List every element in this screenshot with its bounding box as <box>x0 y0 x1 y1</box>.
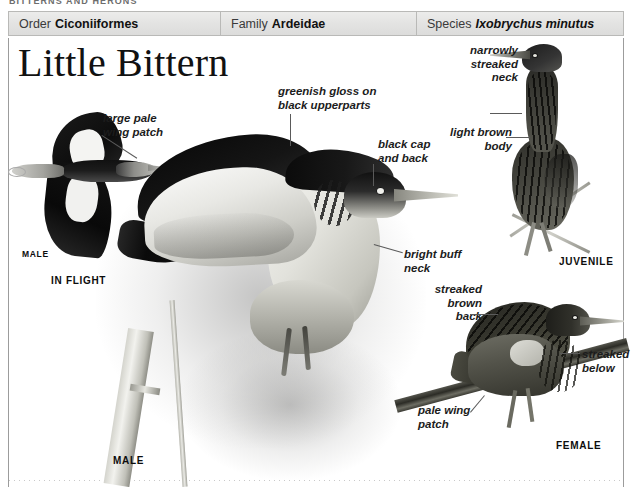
callout-greenish-gloss: greenish gloss on black upperparts <box>278 85 376 112</box>
plate-label-female: FEMALE <box>556 440 601 451</box>
leader-greenish-gloss <box>290 114 291 146</box>
callout-black-cap-and-back: black cap and back <box>378 138 430 165</box>
species-key: Species <box>427 17 471 31</box>
taxonomy-cell-family: Family Ardeidae <box>220 11 416 36</box>
male-belly <box>250 280 354 354</box>
plate-label-male-perched: MALE <box>113 455 144 466</box>
callout-pale-wing-patch: pale wing patch <box>418 404 470 431</box>
plate-label-juvenile: JUVENILE <box>559 256 614 267</box>
juvenile-eye <box>532 53 538 58</box>
callout-light-brown-body: light brown body <box>440 126 512 153</box>
page-rule-bottom-dotted <box>9 480 623 481</box>
female-bill <box>580 316 624 326</box>
callout-streaked-brown-back: streaked brown back <box>424 283 482 324</box>
juvenile-neck-streaks <box>528 72 556 150</box>
taxonomy-cell-species: Species Ixobrychus minutus <box>416 11 624 36</box>
leader-light-brown-body <box>506 137 530 138</box>
leader-streaked-brown-back <box>470 314 498 315</box>
flight-trailing-legs <box>12 164 64 178</box>
family-value: Ardeidae <box>272 17 326 31</box>
taxonomy-cell-order: Order Ciconiiformes <box>8 11 220 36</box>
callout-narrowly-streaked-neck: narrowly streaked neck <box>458 44 518 85</box>
callout-bright-buff-neck: bright buff neck <box>404 248 461 275</box>
male-eye <box>376 187 385 195</box>
female-eye <box>572 315 578 320</box>
order-key: Order <box>19 17 51 31</box>
leader-narrowly-streaked-neck <box>490 113 522 114</box>
illustration-male-perched <box>118 128 408 378</box>
running-head: BITTERNS AND HERONS <box>9 0 138 6</box>
leader-black-cap-and-back <box>373 164 374 186</box>
species-value: Ixobrychus minutus <box>475 17 594 31</box>
order-value: Ciconiiformes <box>55 17 138 31</box>
plate-label-in-flight: IN FLIGHT <box>51 275 106 286</box>
plate-label-flight-male: MALE <box>22 249 49 259</box>
page-rule-left <box>8 38 9 487</box>
field-guide-page: BITTERNS AND HERONS Order Ciconiiformes … <box>0 0 632 487</box>
male-bill <box>394 188 458 202</box>
family-key: Family <box>231 17 268 31</box>
taxonomy-header-bar: Order Ciconiiformes Family Ardeidae Spec… <box>8 11 624 36</box>
callout-streaked-below: streaked below <box>582 348 629 375</box>
juvenile-wing <box>544 154 578 208</box>
callout-large-pale-wing-patch: large pale wing patch <box>103 112 163 139</box>
leader-streaked-below <box>560 353 580 354</box>
female-breast-streaks <box>538 340 582 392</box>
page-title: Little Bittern <box>18 43 229 83</box>
